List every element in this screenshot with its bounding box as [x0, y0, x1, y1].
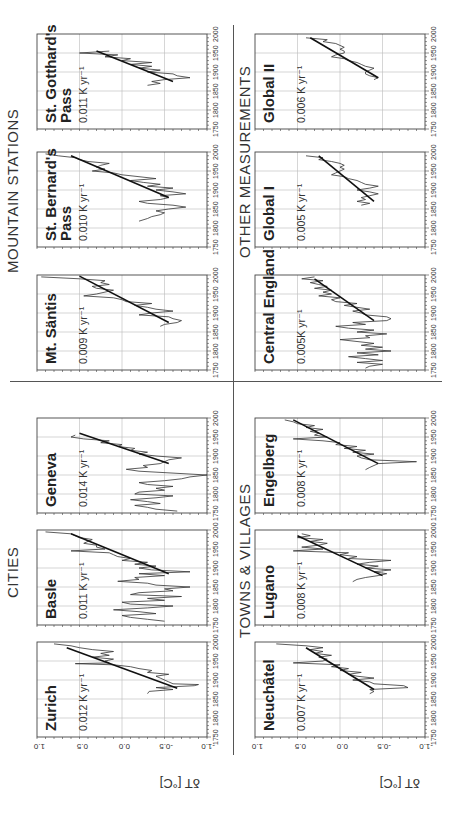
x-tick-label: 1800	[430, 598, 437, 614]
trend-rate-label: 0.009 K yr⁻¹	[77, 307, 89, 364]
trend-rate-label: 0.005K yr⁻¹	[295, 310, 307, 364]
chart-panel-st-gotthard-s-pass: St. Gotthard's Pass0.011 K yr⁻¹175018001…	[37, 34, 207, 129]
data-line	[46, 532, 191, 621]
figure: CITIES MOUNTAIN STATIONS TOWNS & VILLAGE…	[0, 0, 455, 813]
x-tick-label: 1750	[212, 505, 219, 521]
x-tick-label: 1800	[430, 220, 437, 236]
y-tick-label: -1.0	[419, 742, 433, 751]
x-tick-label: 1800	[430, 102, 437, 118]
panel-title: St. Bernard's Pass	[43, 148, 73, 241]
vertical-divider	[10, 381, 442, 382]
chart-panel-engelberg: Engelberg0.008 K yr⁻¹1750180018501900195…	[255, 418, 425, 513]
x-tick-label: 1850	[212, 579, 219, 595]
x-tick-label: 1850	[430, 201, 437, 217]
panel-title: Engelberg	[261, 434, 276, 507]
plot-area	[255, 34, 425, 129]
chart-panel-global-i: Global I0.005 K yr⁻¹17501800185019001950…	[255, 152, 425, 247]
panel-title: Neuchâtel	[261, 659, 276, 731]
x-tick-label: 1800	[212, 220, 219, 236]
x-tick-label: 1800	[212, 102, 219, 118]
x-tick-label: 1850	[430, 324, 437, 340]
trend-rate-label: 0.008 K yr⁻¹	[295, 450, 307, 507]
plot-area	[255, 275, 425, 370]
panel-title: Zurich	[43, 685, 58, 731]
x-tick-label: 1900	[430, 560, 437, 576]
plot-area	[255, 530, 425, 625]
data-line	[80, 51, 191, 85]
x-tick-label: 2000	[212, 267, 219, 283]
x-tick-label: 1950	[430, 429, 437, 445]
x-tick-label: 1900	[430, 448, 437, 464]
x-tick-label: 1850	[430, 467, 437, 483]
panel-title: St. Gotthard's Pass	[43, 24, 73, 123]
x-tick-label: 1850	[430, 579, 437, 595]
panel-title: Geneva	[43, 453, 58, 507]
trend-rate-label: 0.010 K yr⁻¹	[77, 184, 89, 241]
x-tick-label: 2000	[430, 267, 437, 283]
x-tick-label: 1950	[430, 653, 437, 669]
x-tick-label: 1950	[430, 45, 437, 61]
trend-rate-label: 0.011 K yr⁻¹	[77, 66, 89, 123]
y-tick-label: -0.5	[159, 742, 173, 751]
panel-title: Basle	[43, 579, 58, 619]
x-tick-label: 1850	[212, 691, 219, 707]
group-title-towns: TOWNS & VILLAGES	[236, 484, 253, 638]
x-tick-label: 1900	[430, 672, 437, 688]
x-tick-label: 2000	[212, 522, 219, 538]
plot-area	[37, 530, 207, 625]
x-tick-label: 1950	[212, 541, 219, 557]
x-tick-label: 1800	[212, 598, 219, 614]
x-tick-label: 1950	[212, 429, 219, 445]
data-line	[306, 156, 378, 205]
plot-area	[37, 418, 207, 513]
x-tick-label: 1800	[212, 486, 219, 502]
trend-rate-label: 0.008 K yr⁻¹	[295, 562, 307, 619]
x-tick-label: 1750	[430, 121, 437, 137]
y-tick-label: -0.5	[377, 742, 391, 751]
chart-panel-lugano: Lugano0.008 K yr⁻¹1750180018501900195020…	[255, 530, 425, 625]
plot-area	[37, 275, 207, 370]
trend-rate-label: 0.012 K yr⁻¹	[77, 674, 89, 731]
trend-rate-label: 0.006 K yr⁻¹	[295, 66, 307, 123]
x-tick-label: 1950	[212, 653, 219, 669]
trend-line	[97, 51, 174, 81]
horizontal-divider	[233, 25, 234, 755]
x-tick-label: 1850	[212, 467, 219, 483]
x-tick-label: 2000	[430, 634, 437, 650]
x-tick-label: 2000	[430, 26, 437, 42]
x-tick-label: 1850	[212, 83, 219, 99]
y-tick-label: 0.5	[76, 742, 87, 751]
panel-title: Global II	[261, 64, 276, 123]
plot-area	[255, 642, 425, 737]
x-tick-label: 1900	[430, 64, 437, 80]
chart-panel-neuch-tel: Neuchâtel0.007 K yr⁻¹1750180018501900195…	[255, 642, 425, 737]
plot-area	[37, 642, 207, 737]
y-tick-label: 0.0	[337, 742, 348, 751]
y-tick-label: 1.0	[252, 742, 263, 751]
chart-panel-st-bernard-s-pass: St. Bernard's Pass0.010 K yr⁻¹1750180018…	[37, 152, 207, 247]
trend-rate-label: 0.014 K yr⁻¹	[77, 450, 89, 507]
x-tick-label: 2000	[212, 634, 219, 650]
panel-title: Mt. Säntis	[43, 293, 58, 364]
x-tick-label: 2000	[430, 410, 437, 426]
chart-panel-basle: Basle0.011 K yr⁻¹17501800185019001950200…	[37, 530, 207, 625]
trend-rate-label: 0.011 K yr⁻¹	[77, 562, 89, 619]
x-tick-label: 1900	[212, 305, 219, 321]
x-tick-label: 1950	[430, 286, 437, 302]
y-axis-title-bottom: δT [°C]	[380, 776, 420, 791]
x-tick-label: 1900	[212, 672, 219, 688]
x-tick-label: 1950	[212, 286, 219, 302]
x-tick-label: 1750	[212, 617, 219, 633]
x-tick-label: 2000	[430, 144, 437, 160]
x-tick-label: 1850	[212, 201, 219, 217]
trend-line	[319, 156, 374, 202]
x-tick-label: 1900	[430, 305, 437, 321]
x-tick-label: 1750	[212, 362, 219, 378]
panel-title: Lugano	[261, 565, 276, 619]
y-axis-title-top: δT [°C]	[160, 776, 200, 791]
trend-rate-label: 0.007 K yr⁻¹	[295, 674, 307, 731]
x-tick-label: 2000	[212, 144, 219, 160]
x-tick-label: 2000	[430, 522, 437, 538]
x-tick-label: 2000	[212, 410, 219, 426]
x-tick-label: 1900	[212, 448, 219, 464]
